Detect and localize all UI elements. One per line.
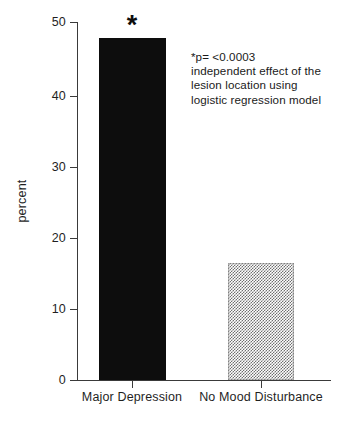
footnote-annotation: *p= <0.0003 independent effect of the le…: [191, 50, 339, 107]
bar-major-depression: [99, 38, 166, 380]
x-axis-label-no-mood-disturbance: No Mood Disturbance: [199, 390, 323, 404]
y-tick-label-10: 10: [40, 302, 66, 316]
x-tick-mark-major-depression: [132, 381, 133, 388]
footnote-line-2: independent effect of the: [191, 64, 339, 78]
y-tick-mark-40: [70, 96, 78, 97]
y-axis-line: [77, 22, 78, 381]
x-axis-line: [77, 380, 331, 381]
x-axis-label-major-depression: Major Depression: [82, 390, 182, 404]
y-tick-mark-0: [70, 380, 78, 381]
footnote-line-4: logistic regression model: [191, 93, 339, 107]
y-tick-label-30: 30: [40, 160, 66, 174]
y-tick-label-50: 50: [40, 15, 66, 29]
bar-no-mood-disturbance: [228, 263, 294, 380]
y-tick-mark-30: [70, 167, 78, 168]
significance-asterisk-icon: *: [127, 12, 138, 39]
y-tick-mark-10: [70, 309, 78, 310]
y-tick-mark-20: [70, 238, 78, 239]
y-tick-label-20: 20: [40, 231, 66, 245]
footnote-line-3: lesion location using: [191, 78, 339, 92]
bar-chart-figure: 50 40 30 20 10 0 percent Major Depressio…: [0, 0, 340, 421]
y-tick-mark-50: [70, 22, 78, 23]
y-tick-label-40: 40: [40, 89, 66, 103]
x-tick-mark-no-mood-disturbance: [261, 381, 262, 388]
y-axis-title: percent: [15, 179, 29, 222]
footnote-line-1: *p= <0.0003: [191, 50, 339, 64]
y-tick-label-0: 0: [40, 373, 66, 387]
